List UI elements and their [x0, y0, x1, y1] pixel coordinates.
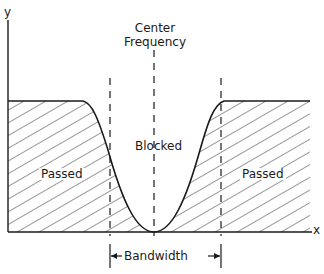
passed-right-label: Passed — [240, 168, 286, 180]
passed-left-label: Passed — [39, 168, 85, 180]
y-axis-label: y — [4, 6, 11, 18]
x-axis-label: x — [313, 224, 320, 236]
bandwidth-left-arrowhead-icon — [111, 253, 117, 259]
bandwidth-label: Bandwidth — [124, 250, 188, 262]
passed-region-hatching — [8, 95, 313, 235]
blocked-label: Blocked — [135, 140, 182, 152]
center-frequency-label-line2: Frequency — [110, 35, 200, 50]
center-frequency-label-line1: Center — [110, 21, 200, 36]
bandwidth-right-arrowhead-icon — [214, 253, 220, 259]
